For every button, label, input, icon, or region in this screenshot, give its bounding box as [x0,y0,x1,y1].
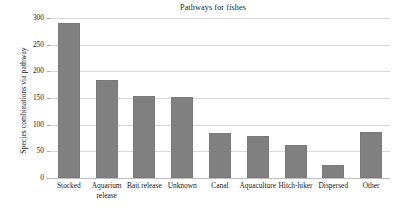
x-axis-tick-label: Other [348,181,394,191]
y-axis-tick-label: 50 [20,147,44,154]
bar [322,165,344,178]
chart-title: Pathways for fishes [0,3,396,12]
bar [209,133,231,178]
bar [285,145,307,178]
bar-slot [126,18,164,178]
y-axis-tick-label: 300 [20,14,44,21]
bar [133,96,155,178]
bar-series [50,18,390,178]
y-axis-tick-label: 200 [20,67,44,74]
bar-slot [352,18,390,178]
y-axis-tick-label: 150 [20,94,44,101]
y-axis-tick-label: 0 [20,174,44,181]
x-axis-line [50,178,390,179]
bar [360,132,382,178]
bar-slot [201,18,239,178]
bar [171,97,193,178]
bar-chart: Pathways for fishes Species combinations… [0,0,396,214]
bar [247,136,269,178]
x-axis-tick-labels: StockedAquarium releaseBait releaseUnkno… [50,181,390,214]
y-axis-tick-label: 100 [20,121,44,128]
bar-slot [314,18,352,178]
bar-slot [163,18,201,178]
bar-slot [239,18,277,178]
bar-slot [50,18,88,178]
bar-slot [277,18,315,178]
bar-slot [88,18,126,178]
y-axis-tick-label: 250 [20,41,44,48]
bar [58,23,80,178]
y-axis-tick-labels: 300250200150100500 [18,18,44,178]
bar [96,80,118,178]
